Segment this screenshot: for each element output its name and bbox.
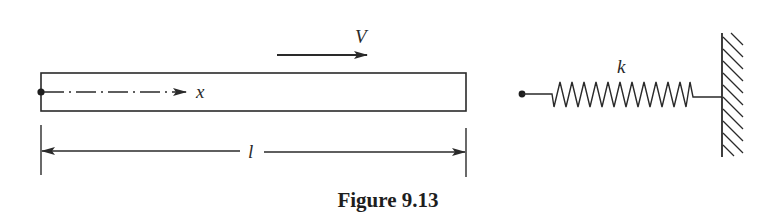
length-label: l <box>248 141 253 162</box>
length-dimension: l <box>41 125 466 177</box>
figure-caption: Figure 9.13 <box>337 188 438 212</box>
spring-group: k <box>519 33 743 157</box>
x-axis-label: x <box>195 81 205 102</box>
spring-coil <box>522 82 722 107</box>
bar-rectangle <box>41 73 466 111</box>
bar-group: x V <box>37 26 466 111</box>
bar-origin-dot <box>37 88 44 95</box>
wall-hatching <box>723 33 743 156</box>
figure-9-13-diagram: x V l k Figure 9.13 <box>0 0 777 218</box>
velocity-label: V <box>355 26 369 47</box>
spring-stiffness-label: k <box>617 56 626 77</box>
